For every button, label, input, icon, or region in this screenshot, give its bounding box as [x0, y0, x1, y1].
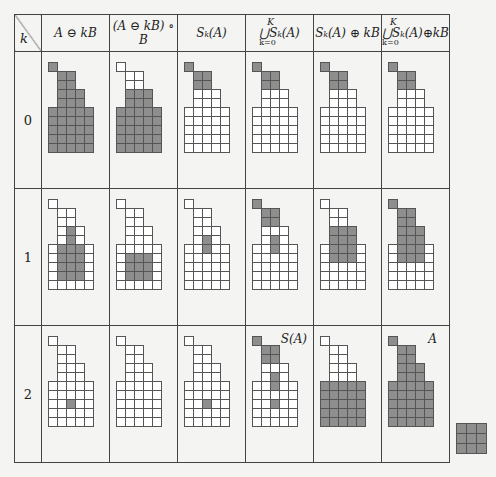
k-value: 2 [15, 326, 42, 463]
pixel-cell [356, 417, 366, 427]
shape-cell [42, 189, 110, 326]
pixel-cell [288, 280, 298, 290]
shape-cell [178, 189, 246, 326]
shape-cell [314, 326, 382, 463]
header-skeleton-subset: Sₖ(A) [178, 15, 246, 52]
union-lower-limit: k=0 [259, 39, 300, 47]
header-union-skeleton: K⋃Sₖ(A)k=0 [246, 15, 314, 52]
union-lower-limit: k=0 [382, 39, 449, 47]
k-label: k [20, 31, 28, 46]
shape-cell [246, 52, 314, 189]
header-union-dilated: K⋃Sₖ(A)⊕kBk=0 [382, 15, 450, 52]
shape-cell [382, 189, 450, 326]
header-erosion: A ⊖ kB [42, 15, 110, 52]
header-opening: (A ⊖ kB) ∘ B [110, 15, 178, 52]
shape-cell [246, 189, 314, 326]
pixel-cell [288, 143, 298, 153]
pixel-cell [84, 143, 94, 153]
k-value: 1 [15, 189, 42, 326]
k-value: 0 [15, 52, 42, 189]
skeleton-label: S(A) [281, 332, 307, 346]
set-a-label: A [428, 332, 437, 346]
pixel-cell [152, 417, 162, 427]
skeleton-table: k A ⊖ kB (A ⊖ kB) ∘ B Sₖ(A) K⋃Sₖ(A)k=0 S… [14, 14, 450, 463]
shape-cell [314, 52, 382, 189]
pixel-cell [424, 280, 434, 290]
shape-cell [42, 52, 110, 189]
shape-cell [178, 52, 246, 189]
pixel-cell [220, 143, 230, 153]
header-dilated-subset: Sₖ(A) ⊕ kB [314, 15, 382, 52]
pixel-cell [476, 443, 487, 454]
pixel-cell [220, 280, 230, 290]
shape-cell [178, 326, 246, 463]
pixel-cell [424, 143, 434, 153]
pixel-cell [288, 417, 298, 427]
pixel-cell [220, 417, 230, 427]
corner-header: k [15, 15, 42, 52]
shape-cell [110, 52, 178, 189]
pixel-cell [356, 280, 366, 290]
shape-cell: S(A) [246, 326, 314, 463]
shape-cell [42, 326, 110, 463]
shape-cell [110, 326, 178, 463]
pixel-cell [84, 280, 94, 290]
shape-cell [382, 52, 450, 189]
shape-cell [110, 189, 178, 326]
shape-cell: A [382, 326, 450, 463]
pixel-cell [424, 417, 434, 427]
shape-cell [314, 189, 382, 326]
pixel-cell [152, 143, 162, 153]
pixel-cell [84, 417, 94, 427]
pixel-cell [356, 143, 366, 153]
pixel-cell [152, 280, 162, 290]
